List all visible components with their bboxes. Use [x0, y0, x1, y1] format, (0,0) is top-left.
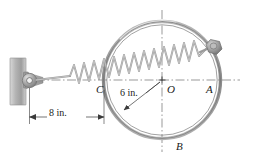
label-point-b: B	[176, 141, 183, 152]
offset-dimension	[30, 88, 105, 124]
dimension-label-wall-offset: 8 in.	[49, 108, 67, 118]
diagram-svg	[0, 0, 253, 161]
label-point-c: C	[96, 84, 103, 95]
radius-leader-stub	[146, 82, 160, 93]
centerlines	[36, 10, 240, 152]
dimension-label-radius: 6 in.	[120, 88, 138, 98]
spring	[70, 41, 206, 83]
pin-hole	[27, 78, 33, 84]
collar-bore	[210, 43, 217, 49]
label-center-o: O	[167, 84, 175, 95]
spring-coil	[70, 41, 206, 83]
figure-canvas: A B C O 6 in. 8 in.	[0, 0, 253, 161]
label-point-a: A	[206, 84, 213, 95]
